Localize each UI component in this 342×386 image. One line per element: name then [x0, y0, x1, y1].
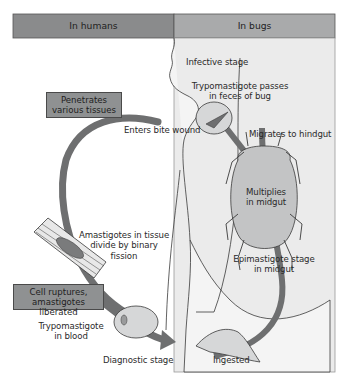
penetrates-line-1: Penetrates	[47, 95, 121, 105]
multiplies-line-2: in midgut	[240, 197, 292, 207]
header-in-humans: In humans	[13, 14, 174, 38]
blood-swirl	[114, 306, 158, 338]
label-epimastigote-stage: Epimastigote stage in midgut	[232, 254, 316, 275]
label-ingested: Ingested	[213, 355, 250, 365]
label-migrates-hindgut: Migrates to hindgut	[249, 129, 331, 139]
trypo-feces-line-2: in feces of bug	[180, 91, 300, 101]
cell-ruptures-line-2: amastigotes liberated	[14, 297, 103, 317]
label-amastigotes-tissue: Amastigotes in tissue divide by binary f…	[76, 230, 172, 261]
penetrates-line-2: various tissues	[47, 105, 121, 115]
trypo-feces-line-1: Trypomastigote passes	[180, 81, 300, 91]
label-multiplies-midgut: Multiplies in midgut	[240, 187, 292, 208]
amastigotes-line-3: fission	[76, 251, 172, 261]
amastigotes-line-2: divide by binary	[76, 240, 172, 250]
trypo-blood-line-1: Trypomastigote	[36, 321, 106, 331]
amastigotes-line-1: Amastigotes in tissue	[76, 230, 172, 240]
header-in-bugs: In bugs	[174, 14, 335, 38]
cell-ruptures-line-1: Cell ruptures,	[14, 287, 103, 297]
label-diagnostic-stage: Diagnostic stage	[103, 355, 173, 365]
label-enters-bite-wound: Enters bite wound	[124, 125, 200, 135]
epimastigote-line-1: Epimastigote stage	[232, 254, 316, 264]
cell-ruptures-box: Cell ruptures, amastigotes liberated	[13, 284, 104, 310]
label-infective-stage: Infective stage	[186, 57, 248, 67]
penetrates-tissues-box: Penetrates various tissues	[46, 92, 122, 118]
label-trypomastigote-blood: Trypomastigote in blood	[36, 321, 106, 342]
trypo-blood-line-2: in blood	[36, 331, 106, 341]
bite-wound-swirl	[196, 102, 232, 134]
multiplies-line-1: Multiplies	[240, 187, 292, 197]
label-trypomastigote-feces: Trypomastigote passes in feces of bug	[180, 81, 300, 102]
trypomastigote-in-blood	[121, 315, 127, 325]
epimastigote-line-2: in midgut	[232, 264, 316, 274]
